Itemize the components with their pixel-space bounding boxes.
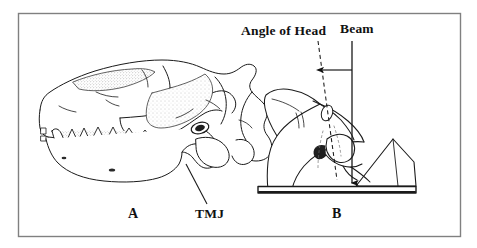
head-muzzle bbox=[326, 134, 355, 162]
skull-mental-foramen bbox=[109, 168, 115, 171]
head-nose-tip bbox=[314, 146, 326, 159]
skull-mental-foramen-2 bbox=[62, 157, 67, 160]
panel-a-skull bbox=[39, 60, 272, 182]
head-ear-pinna bbox=[264, 89, 320, 136]
tmj-label: TMJ bbox=[195, 207, 224, 221]
panel-a-label: A bbox=[128, 207, 138, 221]
panel-b-head bbox=[258, 89, 416, 193]
angle-of-head-label: Angle of Head bbox=[241, 24, 326, 38]
beam-label: Beam bbox=[340, 22, 374, 36]
panel-b-label: B bbox=[332, 207, 342, 221]
tmj-leader-line bbox=[186, 164, 207, 204]
head-jaw-line bbox=[343, 166, 357, 180]
figure-root: Angle of Head Beam TMJ A B bbox=[0, 0, 477, 248]
figure-artwork bbox=[0, 0, 477, 248]
foam-wedge bbox=[356, 139, 416, 186]
